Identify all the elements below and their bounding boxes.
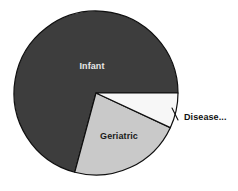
pie-slice-label-geriatric: Geriatric (100, 131, 138, 141)
pie-slice-label-infant: Infant (79, 61, 104, 71)
pie-slice-label-disease: Disease... (184, 112, 227, 122)
pie-chart: Infant Geriatric Disease... (0, 0, 238, 191)
pie-chart-canvas: Infant Geriatric Disease... (0, 0, 238, 191)
